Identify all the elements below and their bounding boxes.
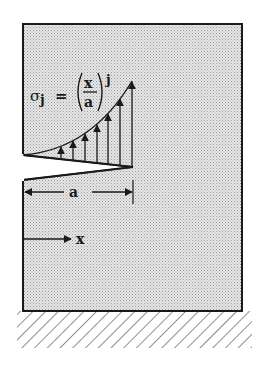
crack-stress-diagram: σ j = x a j a x	[0, 0, 261, 369]
ground-hatch	[17, 311, 252, 348]
fraction-numerator: x	[84, 75, 93, 91]
sigma-symbol: σ	[30, 87, 40, 105]
fixed-support	[17, 311, 252, 348]
sigma-subscript: j	[39, 92, 45, 107]
exponent: j	[105, 72, 111, 87]
equals-sign: =	[55, 87, 68, 105]
fraction-denominator: a	[84, 94, 93, 110]
dimension-label-a: a	[69, 184, 78, 200]
x-axis-label: x	[76, 231, 85, 247]
